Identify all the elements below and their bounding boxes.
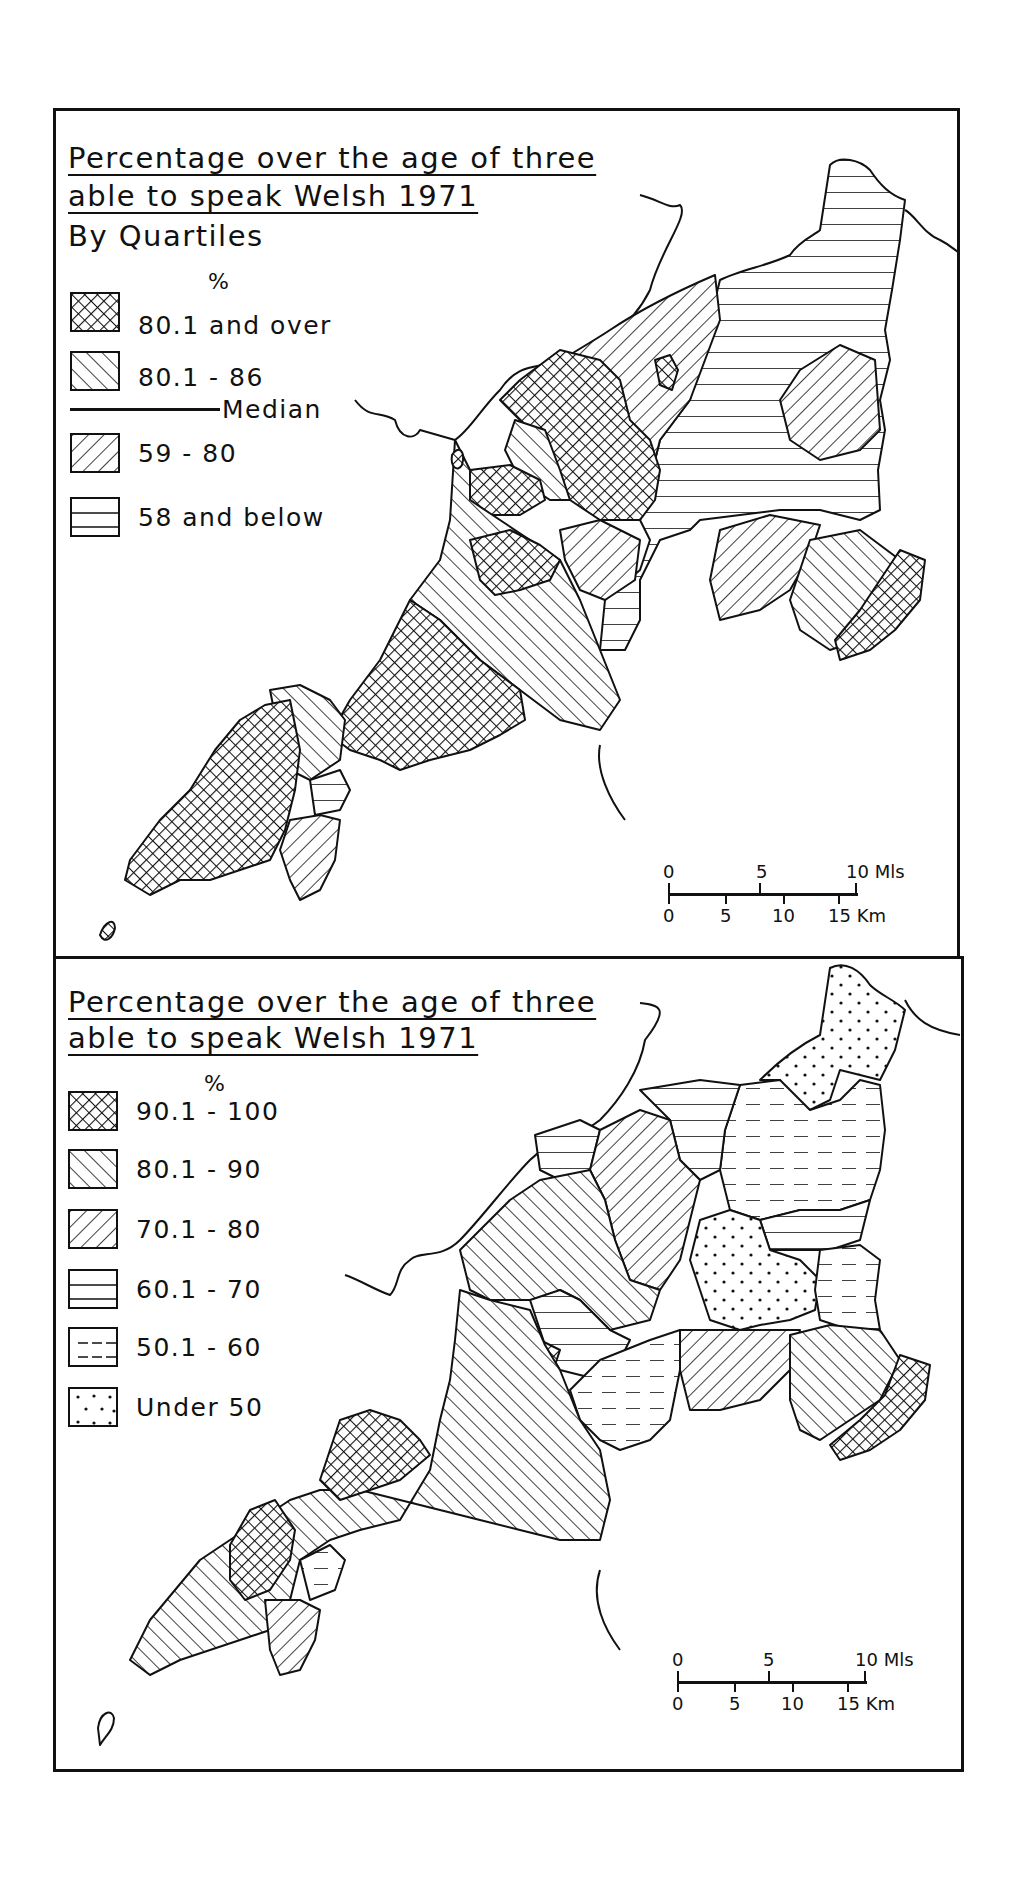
legend-item-60-70: 60.1 - 70 bbox=[68, 1269, 262, 1309]
region-80-over-coastal-dot bbox=[452, 450, 463, 469]
bottom-map-title-line2: able to speak Welsh 1971 bbox=[68, 1021, 478, 1055]
region-70-80-llyn-south bbox=[265, 1600, 320, 1675]
top-map-title-line1: Percentage over the age of three bbox=[68, 141, 596, 175]
legend-item-90-100: 90.1 - 100 bbox=[68, 1091, 279, 1131]
backslash-hatch-swatch-icon bbox=[70, 351, 120, 391]
horizontal-lines-swatch-icon bbox=[68, 1269, 118, 1309]
island-bardsey bbox=[98, 1713, 114, 1745]
backslash-hatch-swatch-icon bbox=[68, 1149, 118, 1189]
legend-item-59-80: 59 - 80 bbox=[70, 433, 237, 473]
dashed-lines-swatch-icon bbox=[68, 1327, 118, 1367]
crosshatch-swatch-icon bbox=[70, 292, 120, 332]
legend-item-80-over: 80.1 and over bbox=[70, 283, 332, 340]
dots-swatch-icon bbox=[68, 1387, 118, 1427]
legend-item-80-90: 80.1 - 90 bbox=[68, 1149, 262, 1189]
region-80-over-llyn-tip bbox=[125, 700, 300, 895]
bottom-scale-bar: 0 5 10 Mls 0 5 10 15 Km bbox=[677, 1657, 907, 1727]
legend-item-58-below: 58 and below bbox=[70, 497, 325, 537]
region-59-80-llyn-south bbox=[280, 815, 340, 900]
bottom-map-panel: Percentage over the age of three able to… bbox=[53, 956, 964, 1772]
legend-median: Median bbox=[70, 395, 322, 424]
legend-item-50-60: 50.1 - 60 bbox=[68, 1327, 262, 1367]
legend-item-under-50: Under 50 bbox=[68, 1387, 263, 1427]
region-90-100-llyn-north bbox=[320, 1410, 430, 1500]
crosshatch-swatch-icon bbox=[68, 1091, 118, 1131]
legend-item-70-80: 70.1 - 80 bbox=[68, 1209, 262, 1249]
top-map-title-line2: able to speak Welsh 1971 bbox=[68, 179, 478, 213]
forwardslash-hatch-swatch-icon bbox=[70, 433, 120, 473]
horizontal-lines-swatch-icon bbox=[70, 497, 120, 537]
forwardslash-hatch-swatch-icon bbox=[68, 1209, 118, 1249]
island-bardsey bbox=[100, 922, 115, 940]
bottom-map-title-line1: Percentage over the age of three bbox=[68, 985, 596, 1019]
top-map-panel: Percentage over the age of three able to… bbox=[53, 108, 960, 959]
region-70-80-southeast bbox=[680, 1330, 800, 1410]
median-line-icon bbox=[70, 408, 220, 411]
top-map-subtitle: By Quartiles bbox=[68, 219, 264, 253]
legend-item-80-86: 80.1 - 86 bbox=[70, 349, 264, 392]
region-50-60-east bbox=[815, 1245, 880, 1330]
top-scale-bar: 0 5 10 Mls 0 5 10 15 Km bbox=[668, 869, 898, 939]
